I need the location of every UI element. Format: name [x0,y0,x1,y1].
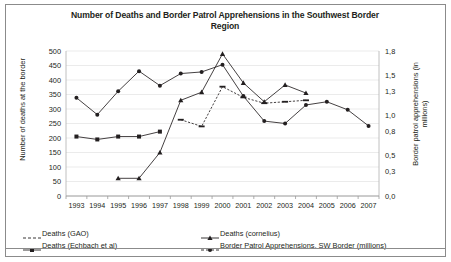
plot-area: 050100150200250300350400450500 0,00,30,5… [0,0,451,262]
chart-screenshot: Number of Deaths and Border Patrol Appre… [0,0,451,262]
svg-text:2000: 2000 [215,201,231,210]
gridlines [66,51,379,196]
data-series-layer [74,51,370,180]
legend-label: Border Patrol Apprehensions, SW Border (… [220,241,386,251]
svg-text:0,3: 0,3 [385,167,395,176]
legend-item[interactable]: Deaths (GAO) [22,228,117,239]
left-axis-tick-labels: 050100150200250300350400450500 [49,47,61,201]
chart-svg: 050100150200250300350400450500 0,00,30,5… [0,0,451,262]
svg-text:250: 250 [49,119,61,128]
svg-text:1,3: 1,3 [385,87,395,96]
svg-text:1,5: 1,5 [385,71,395,80]
svg-text:0,8: 0,8 [385,127,395,136]
svg-text:1999: 1999 [194,201,210,210]
legend-marker-dash-icon [22,229,42,239]
svg-text:2001: 2001 [235,201,251,210]
svg-text:200: 200 [49,134,61,143]
svg-text:100: 100 [49,163,61,172]
legend-marker-square-icon [22,241,42,251]
svg-text:2004: 2004 [298,201,314,210]
svg-text:50: 50 [53,177,61,186]
series-markers [116,51,309,180]
svg-text:0: 0 [57,192,61,201]
legend-item[interactable]: Deaths (Echbach et al) [22,240,117,251]
svg-text:0,0: 0,0 [385,192,395,201]
svg-text:1994: 1994 [89,201,105,210]
svg-text:1,0: 1,0 [385,111,395,120]
svg-text:450: 450 [49,61,61,70]
svg-text:400: 400 [49,76,61,85]
legend-separator [6,248,445,249]
series-markers [74,130,161,142]
svg-text:2006: 2006 [340,201,356,210]
svg-text:1996: 1996 [131,201,147,210]
legend-item[interactable]: Border Patrol Apprehensions, SW Border (… [200,240,386,251]
legend-marker-triangle-icon [200,229,220,239]
svg-text:1993: 1993 [68,201,84,210]
svg-text:350: 350 [49,90,61,99]
svg-text:1998: 1998 [173,201,189,210]
svg-text:150: 150 [49,148,61,157]
series-markers [178,86,309,128]
svg-text:500: 500 [49,47,61,56]
svg-text:300: 300 [49,105,61,114]
svg-text:2007: 2007 [361,201,377,210]
svg-text:2003: 2003 [277,201,293,210]
legend-label: Deaths (cornelius) [220,229,280,239]
svg-text:1995: 1995 [110,201,126,210]
svg-text:0,5: 0,5 [385,151,395,160]
svg-text:1,8: 1,8 [385,47,395,56]
svg-text:2005: 2005 [319,201,335,210]
series-markers [74,63,370,128]
svg-text:1997: 1997 [152,201,168,210]
legend-label: Deaths (Echbach et al) [42,241,117,251]
right-axis-tick-labels: 0,00,30,50,81,01,31,51,8 [385,47,395,201]
x-axis-tick-labels: 1993199419951996199719981999200020012002… [68,201,376,210]
legend-item[interactable]: Deaths (cornelius) [200,228,386,239]
legend-label: Deaths (GAO) [42,229,89,239]
legend-marker-circle-icon [200,241,220,251]
svg-text:2002: 2002 [256,201,272,210]
